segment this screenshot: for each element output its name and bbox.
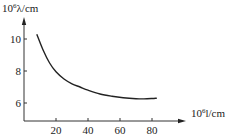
y-tick-label: 6 — [16, 97, 22, 109]
y-tick-label: 8 — [16, 65, 22, 77]
x-tick-label: 60 — [115, 124, 127, 136]
x-tick-label: 40 — [83, 124, 95, 136]
y-axis-label: 106λ/cm — [2, 2, 39, 14]
data-curve — [37, 34, 157, 99]
series — [37, 34, 157, 99]
x-axis-label: 106l/cm — [191, 107, 225, 119]
x-tick-label: 20 — [51, 124, 63, 136]
x-axis — [24, 119, 186, 123]
y-axis — [22, 17, 26, 121]
y-tick-label: 10 — [10, 33, 22, 45]
x-axis-arrow-icon — [178, 119, 186, 123]
x-tick-label: 80 — [147, 124, 159, 136]
y-axis-arrow-icon — [22, 17, 26, 25]
chart: 6810 20406080 106λ/cm 106l/cm — [0, 0, 232, 140]
